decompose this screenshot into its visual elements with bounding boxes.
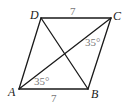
- vertex-label-d: D: [29, 8, 39, 22]
- vertex-label-c: C: [113, 9, 122, 23]
- vertex-label-b: B: [91, 87, 99, 101]
- side-bc: [88, 18, 111, 89]
- side-label-dc: 7: [70, 5, 76, 17]
- angle-label-c: 35°: [85, 36, 100, 48]
- parallelogram-diagram: A B C D 7 7 35° 35°: [0, 0, 127, 104]
- side-label-ab: 7: [51, 92, 57, 104]
- angle-label-a: 35°: [34, 75, 49, 87]
- vertex-label-a: A: [7, 85, 16, 99]
